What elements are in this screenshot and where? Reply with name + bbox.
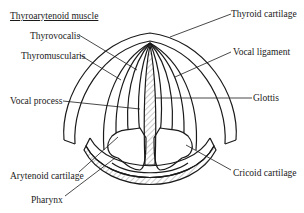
label-arytenoid-cartilage: Arytenoid cartilage (10, 171, 84, 182)
label-thyroid-cartilage: Thyroid cartilage (231, 9, 297, 20)
label-thyromuscularis: Thyromuscularis (21, 51, 85, 62)
diagram-title: Thyroarytenoid muscle (10, 11, 98, 22)
label-thyrovocalis: Thyrovocalis (30, 31, 80, 42)
label-vocal-process: Vocal process (10, 96, 62, 107)
label-vocal-ligament: Vocal ligament (233, 47, 290, 58)
label-cricoid-cartilage: Cricoid cartilage (233, 168, 297, 179)
glottis-shape (144, 45, 156, 165)
label-pharynx: Pharynx (31, 195, 63, 206)
label-glottis: Glottis (253, 93, 279, 104)
